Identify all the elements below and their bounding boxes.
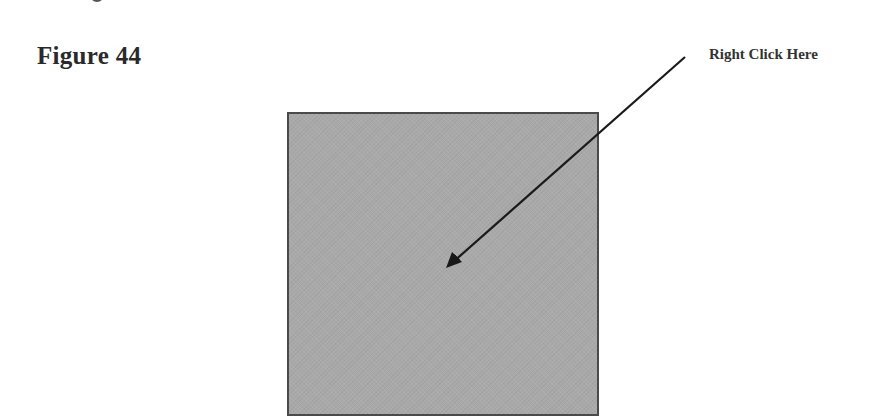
figure-title: Figure 44: [37, 42, 141, 70]
right-click-target-area[interactable]: [287, 112, 599, 416]
callout-label: Right Click Here: [709, 46, 818, 63]
cropped-text-fragment: [90, 0, 104, 2]
